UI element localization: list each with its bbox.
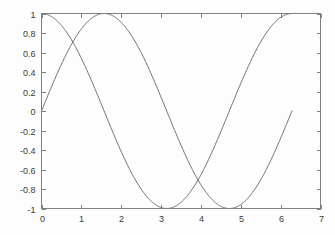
axes-frame [42,14,321,209]
y-axis-tick-label: 1 [30,10,35,20]
series-line-sin [42,14,292,209]
x-axis-tick-label: 4 [199,214,204,224]
y-axis-tick-label: 0.4 [23,68,36,78]
data-series-group [42,14,292,209]
y-axis-tick-label: 0 [30,107,35,117]
y-axis-tick-label: -0.4 [20,146,36,156]
x-axis-tick-label-group: 01234567 [40,214,324,224]
x-axis-tick-label: 0 [40,214,45,224]
y-axis-tick-label: 0.6 [23,49,36,59]
x-axis-tick-label: 5 [239,214,244,224]
x-axis-tick-label: 2 [119,214,124,224]
x-axis-tick-label: 7 [319,214,324,224]
x-axis-tick-label: 6 [279,214,284,224]
y-axis-tick-label: -1 [27,205,35,215]
y-axis-tick-label: -0.2 [20,127,36,137]
x-axis-tick-label: 1 [79,214,84,224]
y-axis-tick-label: -0.8 [20,185,36,195]
y-axis-tick-label: 0.2 [23,88,36,98]
y-axis-tick-label: 0.8 [23,29,36,39]
figure-canvas: -1-0.8-0.6-0.4-0.200.20.40.60.81 0123456… [0,0,335,235]
x-axis-tick-label: 3 [159,214,164,224]
y-axis-tick-label: -0.6 [20,166,36,176]
tick-mark-group [42,14,322,210]
plot-svg: -1-0.8-0.6-0.4-0.200.20.40.60.81 0123456… [0,0,335,235]
y-axis-tick-label-group: -1-0.8-0.6-0.4-0.200.20.40.60.81 [20,10,36,215]
